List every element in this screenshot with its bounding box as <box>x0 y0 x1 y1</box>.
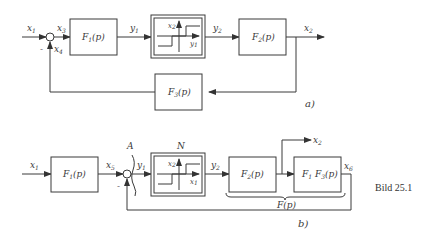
label-y2-b: y2 <box>210 160 220 171</box>
block-diagram: x1 - x4 x3 F1(p) y1 x2 y1 y2 F2(p) x2 <box>0 0 439 240</box>
label-x2: x2 <box>304 23 313 34</box>
label-x1-b: x1 <box>30 160 39 171</box>
nl-x-label: y1 <box>189 40 198 48</box>
label-x6: x6 <box>344 161 353 172</box>
block-F1-label: F1(p) <box>81 32 105 43</box>
label-y1: y1 <box>129 23 139 34</box>
label-y1-b: y1 <box>136 160 146 171</box>
block-F1F3-label: F1 F3(p) <box>301 169 338 180</box>
figure-b-label: b) <box>298 218 308 229</box>
block-F2-b-label: F2(p) <box>240 169 264 180</box>
cut-line-A <box>132 155 136 196</box>
label-x1: x1 <box>27 23 36 34</box>
nl-y-label: x2 <box>168 22 176 30</box>
label-y2: y2 <box>212 23 222 34</box>
summing-junction-b <box>123 170 131 178</box>
label-x2-b: x2 <box>313 135 322 146</box>
nl-b-y-label: x2 <box>168 160 176 168</box>
brace-F <box>226 193 345 200</box>
figure-caption: Bild 25.1 <box>375 182 412 193</box>
summing-junction <box>46 33 54 41</box>
label-x3: x3 <box>57 23 66 34</box>
cut-label-A: A <box>126 141 134 151</box>
minus-sign-b: - <box>117 181 120 191</box>
block-F3-label: F3(p) <box>167 87 191 98</box>
figure-a: x1 - x4 x3 F1(p) y1 x2 y1 y2 F2(p) x2 <box>22 15 324 110</box>
nonlinear-label-N: N <box>176 141 186 151</box>
nl-b-x-label: x1 <box>190 178 198 186</box>
block-F1-b-label: F1(p) <box>62 169 86 180</box>
label-x4: x4 <box>54 44 63 55</box>
block-F2-label: F2(p) <box>251 32 275 43</box>
figure-a-label: a) <box>305 98 315 109</box>
minus-sign: - <box>40 44 43 54</box>
brace-label-Fp: F(p) <box>276 200 297 210</box>
label-x5: x5 <box>106 160 115 171</box>
figure-b: x1 F1(p) x5 - A y1 N x2 x1 y2 F2(p) <box>22 135 353 229</box>
